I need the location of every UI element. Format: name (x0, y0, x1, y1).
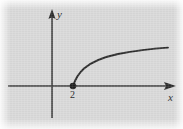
figure-container: y x 2 (0, 0, 183, 129)
x-axis-label: x (168, 92, 173, 103)
y-axis-label: y (57, 9, 62, 20)
curve-sqrt-x-minus-2 (73, 48, 168, 86)
graph-plot-area (0, 0, 183, 129)
x-tick-label-2: 2 (70, 90, 75, 100)
